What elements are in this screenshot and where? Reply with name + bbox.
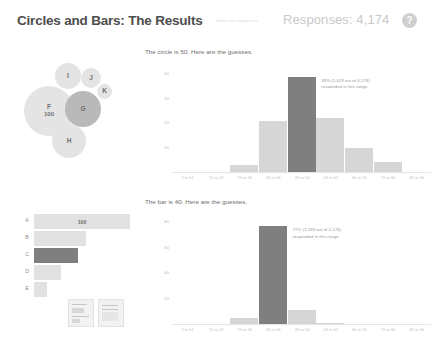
- histogram-annotation: 77% (3,183 out of 4,174)responded in thi…: [293, 227, 341, 240]
- stimulus-bar: [34, 265, 61, 280]
- y-axis-tick-label: 20: [155, 120, 169, 125]
- histogram-bar[interactable]: [316, 323, 344, 324]
- x-axis-tick-label: 25 to 34: [230, 327, 259, 332]
- x-axis-tick-label: 85 to 94: [402, 327, 431, 332]
- annotation-line-1: 39% (1,629 out of 4,174): [321, 78, 369, 85]
- stimulus-bar-row[interactable]: B: [22, 231, 142, 246]
- histogram-bar[interactable]: [345, 148, 373, 172]
- results-page: Circles and Bars: The Results Show all r…: [0, 0, 441, 357]
- chart-title: The circle is 50. Here are the guesses.: [145, 48, 253, 55]
- stimulus-bar: 100: [34, 214, 130, 229]
- bubble-label: F: [47, 104, 51, 111]
- histogram-bar[interactable]: [230, 318, 258, 324]
- bubble-value: 100: [44, 111, 54, 117]
- stimulus-bar-category: B: [22, 234, 32, 240]
- stimulus-bar: [34, 248, 78, 263]
- thumbnail-circles[interactable]: [68, 299, 94, 327]
- y-axis-tick-label: 30: [155, 96, 169, 101]
- x-axis-tick-label: 5 to 14: [173, 175, 202, 180]
- histogram-annotation: 39% (1,629 out of 4,174)responded in thi…: [321, 78, 369, 91]
- x-axis-tick-label: 65 to 74: [345, 175, 374, 180]
- y-axis-tick-label: 20: [155, 296, 169, 301]
- stimulus-thumbnails: [68, 299, 124, 325]
- page-header: Circles and Bars: The Results Show all r…: [0, 0, 441, 40]
- stimulus-bar: [34, 231, 86, 246]
- stimulus-bar-value: 100: [78, 219, 87, 225]
- responses-count: Responses: 4,174: [283, 12, 389, 27]
- stimulus-bar-category: D: [22, 268, 32, 274]
- histogram-bar[interactable]: [316, 118, 344, 172]
- stimulus-bar-category: E: [22, 285, 32, 291]
- x-axis-tick-label: 15 to 24: [202, 327, 231, 332]
- stimulus-bar-category: A: [22, 217, 32, 223]
- circles-stimulus: F100GHIJK: [18, 56, 138, 186]
- y-axis-tick-label: 10: [155, 145, 169, 150]
- histogram-bar[interactable]: [259, 121, 287, 172]
- bubble-h[interactable]: H: [52, 124, 86, 158]
- y-axis-tick-label: 60: [155, 245, 169, 250]
- histogram-bar[interactable]: [288, 310, 316, 324]
- bubble-label: I: [67, 73, 69, 80]
- bubble-label: G: [80, 106, 85, 113]
- x-axis-tick-label: 75 to 84: [374, 327, 403, 332]
- x-axis-tick-label: 85 to 94: [402, 175, 431, 180]
- thumbnail-bars[interactable]: [98, 299, 124, 327]
- annotation-line-2: responded in this range.: [321, 84, 369, 91]
- histogram-bar[interactable]: [230, 165, 258, 172]
- stimulus-bar: [34, 282, 47, 297]
- x-axis-tick-label: 55 to 64: [316, 327, 345, 332]
- bubble-g[interactable]: G: [65, 91, 101, 127]
- stimulus-bar-row[interactable]: E: [22, 282, 142, 297]
- show-all-responses-link[interactable]: Show all responses: [216, 18, 258, 23]
- bubble-label: H: [67, 138, 72, 145]
- x-axis-tick-label: 55 to 64: [316, 175, 345, 180]
- circle-guesses-chart: The circle is 50. Here are the guesses. …: [143, 48, 435, 188]
- page-title: Circles and Bars: The Results: [17, 13, 203, 28]
- y-axis-tick-label: 80: [155, 219, 169, 224]
- y-axis-tick-label: 40: [155, 71, 169, 76]
- bubble-j[interactable]: J: [81, 68, 101, 88]
- x-axis-line: [173, 172, 431, 173]
- stimulus-bar-category: C: [22, 251, 32, 257]
- x-axis-tick-label: 65 to 74: [345, 327, 374, 332]
- x-axis-tick-label: 25 to 34: [230, 175, 259, 180]
- stimulus-bar-row[interactable]: A100: [22, 214, 142, 229]
- x-axis-tick-label: 15 to 24: [202, 175, 231, 180]
- chart-title: The bar is 40. Here are the guesses.: [145, 198, 247, 205]
- bubble-label: K: [102, 88, 107, 95]
- question-mark-icon[interactable]: ?: [402, 13, 417, 28]
- bars-stimulus: A100BCDE: [22, 214, 142, 304]
- plot-area: 403020105 to 1415 to 2425 to 3435 to 444…: [173, 62, 431, 172]
- x-axis-tick-label: 75 to 84: [374, 175, 403, 180]
- annotation-line-2: responded in this range.: [293, 234, 341, 241]
- plot-area: 806040205 to 1415 to 2425 to 3435 to 444…: [173, 212, 431, 324]
- histogram-bar[interactable]: [259, 226, 287, 324]
- annotation-line-1: 77% (3,183 out of 4,174): [293, 227, 341, 234]
- x-axis-tick-label: 5 to 14: [173, 327, 202, 332]
- stimulus-bar-row[interactable]: C: [22, 248, 142, 263]
- bubble-k[interactable]: K: [97, 84, 112, 99]
- x-axis-tick-label: 45 to 54: [288, 327, 317, 332]
- y-axis-tick-label: 40: [155, 270, 169, 275]
- stimulus-bar-row[interactable]: D: [22, 265, 142, 280]
- x-axis-tick-label: 35 to 44: [259, 175, 288, 180]
- x-axis-tick-label: 45 to 54: [288, 175, 317, 180]
- histogram-bar[interactable]: [374, 162, 402, 172]
- bubble-i[interactable]: I: [55, 63, 81, 89]
- bar-guesses-chart: The bar is 40. Here are the guesses. 806…: [143, 198, 435, 343]
- x-axis-tick-label: 35 to 44: [259, 327, 288, 332]
- x-axis-line: [173, 324, 431, 325]
- histogram-bar[interactable]: [288, 77, 316, 172]
- bubble-label: J: [89, 75, 93, 82]
- separator-dot: ·: [278, 18, 281, 27]
